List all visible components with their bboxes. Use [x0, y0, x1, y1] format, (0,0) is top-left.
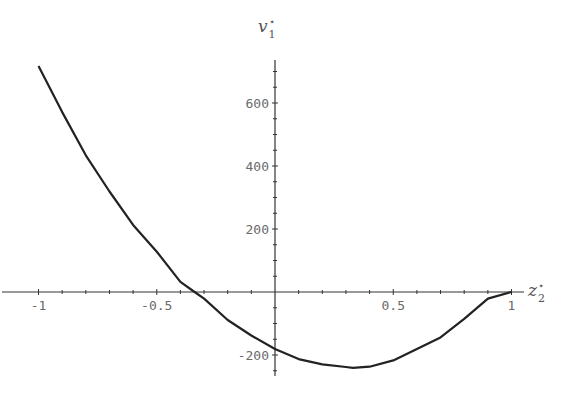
y-axis-label: v1⋆ — [258, 16, 276, 41]
x-tick-label: -1 — [31, 298, 47, 313]
y-axis: -200200400600 — [238, 60, 278, 376]
x-tick-label: 0.5 — [382, 298, 405, 313]
x-axis: -1-0.50.51 — [2, 289, 524, 313]
y-tick-label: 200 — [246, 222, 269, 237]
x-tick-label: -0.5 — [141, 298, 172, 313]
x-axis-label: z2⋆ — [527, 280, 545, 305]
chart: -1-0.50.51 -200200400600 v1⋆ z2⋆ — [0, 0, 575, 393]
y-tick-label: 600 — [246, 96, 269, 111]
x-tick-label: 1 — [508, 298, 516, 313]
y-tick-label: 400 — [246, 159, 269, 174]
y-tick-label: -200 — [238, 348, 269, 363]
